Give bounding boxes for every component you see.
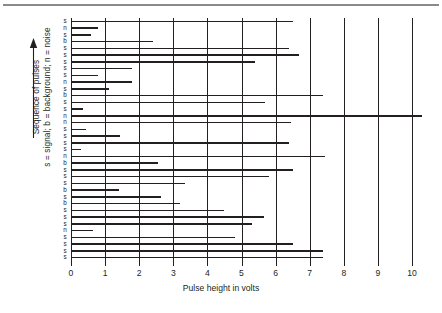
pulse-bar: [71, 210, 224, 211]
figure-top-rule: [3, 4, 439, 6]
pulse-bar: [71, 250, 323, 251]
pulse-bar: [71, 183, 185, 184]
plot-area: [71, 18, 412, 261]
pulse-bar: [71, 162, 158, 163]
pulse-bar: [71, 27, 98, 28]
pulse-bar: [71, 129, 86, 130]
gridline-10: [412, 18, 413, 261]
x-tick-mark-9: [378, 261, 379, 266]
pulse-bar: [71, 243, 293, 244]
pulse-bar: [71, 216, 264, 217]
x-tick-label-4: 4: [195, 268, 219, 278]
x-tick-mark-5: [242, 261, 243, 266]
pulse-bar: [71, 149, 81, 150]
pulse-bar: [71, 81, 132, 82]
pulse-bar: [71, 95, 323, 96]
x-tick-label-0: 0: [59, 268, 83, 278]
x-tick-label-2: 2: [127, 268, 151, 278]
pulse-bar: [71, 189, 119, 190]
pulse-bar: [71, 122, 291, 123]
pulse-bar: [71, 61, 255, 62]
pulse-bar: [71, 196, 161, 197]
gridline-8: [344, 18, 345, 261]
x-tick-mark-2: [139, 261, 140, 266]
pulse-bar: [71, 88, 109, 89]
pulse-category-letters: snsbsssssnsbssnnssssnbsssbsbsssnssss: [60, 18, 70, 261]
gridline-7: [310, 18, 311, 261]
x-tick-mark-10: [412, 261, 413, 266]
pulse-bar: [71, 54, 299, 55]
x-tick-label-1: 1: [93, 268, 117, 278]
pulse-bar: [71, 21, 293, 22]
pulse-bar: [71, 108, 83, 109]
x-axis-title: Pulse height in volts: [0, 283, 442, 293]
pulse-category-letter: s: [60, 254, 70, 260]
x-tick-label-9: 9: [366, 268, 390, 278]
pulse-bar: [71, 135, 120, 136]
x-tick-mark-4: [207, 261, 208, 266]
pulse-bar: [71, 34, 91, 35]
x-tick-label-8: 8: [332, 268, 356, 278]
sequence-direction-arrow-icon: [29, 38, 38, 138]
pulse-bar: [71, 75, 98, 76]
x-tick-label-5: 5: [230, 268, 254, 278]
pulse-bar: [71, 142, 289, 143]
pulse-bar: [71, 68, 132, 69]
y-axis-legend: s = signal; b = background; n = noise: [36, 12, 58, 182]
pulse-bar: [71, 176, 269, 177]
x-tick-label-7: 7: [298, 268, 322, 278]
pulse-bar: [71, 230, 93, 231]
x-tick-mark-3: [173, 261, 174, 266]
y-axis-legend-text: s = signal; b = background; n = noise: [42, 27, 52, 167]
x-tick-mark-7: [310, 261, 311, 266]
pulse-bar: [71, 102, 265, 103]
pulse-bar: [71, 257, 323, 258]
x-tick-mark-8: [344, 261, 345, 266]
pulse-bar: [71, 115, 422, 116]
pulse-bar: [71, 156, 325, 157]
pulse-bar: [71, 203, 180, 204]
x-tick-label-3: 3: [161, 268, 185, 278]
pulse-bar: [71, 223, 252, 224]
figure-container: Sequence of pulses s = signal; b = backg…: [0, 0, 442, 313]
x-tick-label-6: 6: [264, 268, 288, 278]
pulse-bar: [71, 48, 289, 49]
pulse-bar: [71, 41, 153, 42]
x-tick-mark-1: [105, 261, 106, 266]
pulse-bar: [71, 169, 293, 170]
x-tick-label-10: 10: [400, 268, 424, 278]
pulse-bar: [71, 237, 235, 238]
gridline-9: [378, 18, 379, 261]
x-tick-mark-0: [71, 261, 72, 266]
x-tick-mark-6: [276, 261, 277, 266]
